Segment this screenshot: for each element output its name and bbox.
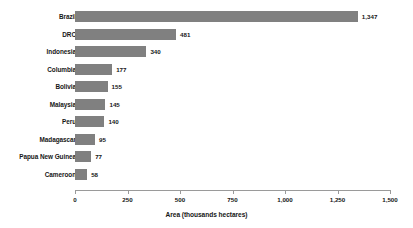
bar [75,99,105,110]
bar [75,116,104,127]
bar-value-label: 58 [91,169,98,180]
bar [75,169,87,180]
bar [75,46,146,57]
x-tick-mark [338,190,339,194]
category-label: Madagascar [0,134,76,145]
bar-row: DRC481 [0,29,413,47]
x-tick-mark [128,190,129,194]
x-tick-label: 1,500 [382,196,397,204]
bar-value-label: 177 [116,64,126,75]
bar-track: 58 [75,169,390,180]
bar-track: 177 [75,64,390,75]
bar-value-label: 155 [112,81,122,92]
bar-value-label: 481 [180,29,190,40]
bar-track: 95 [75,134,390,145]
bar-row: Peru140 [0,116,413,134]
bar [75,151,91,162]
bar-track: 481 [75,29,390,40]
bar-track: 155 [75,81,390,92]
category-label: DRC [0,29,76,40]
bar-value-label: 77 [95,151,102,162]
x-tick-mark [390,190,391,194]
x-tick-label: 0 [73,196,76,204]
x-tick-mark [285,190,286,194]
bar [75,134,95,145]
bar-value-label: 145 [109,99,119,110]
bar-row: Cameroon58 [0,169,413,187]
bar-row: Brazil1,347 [0,11,413,29]
category-label: Brazil [0,11,76,22]
bar-track: 140 [75,116,390,127]
bar-row: Malaysia145 [0,99,413,117]
bar-value-label: 340 [150,46,160,57]
x-tick-label: 500 [175,196,185,204]
category-label: Malaysia [0,99,76,110]
x-tick-label: 1,250 [330,196,345,204]
bar [75,11,358,22]
x-tick-label: 750 [227,196,237,204]
category-label: Papua New Guinea [0,151,76,162]
bar [75,29,176,40]
category-label: Bolivia [0,81,76,92]
chart-plot-area: Brazil1,347DRC481Indonesia340Columbia177… [0,11,413,186]
bar-row: Papua New Guinea77 [0,151,413,169]
bar-value-label: 140 [108,116,118,127]
bar-track: 77 [75,151,390,162]
x-tick-label: 250 [122,196,132,204]
bar-track: 145 [75,99,390,110]
bar-track: 340 [75,46,390,57]
bar-row: Bolivia155 [0,81,413,99]
category-label: Columbia [0,64,76,75]
x-tick-label: 1,000 [277,196,292,204]
x-tick-mark [180,190,181,194]
x-tick-mark [75,190,76,194]
bar [75,64,112,75]
x-axis-title: Area (thousands hectares) [0,211,413,218]
bar [75,81,108,92]
x-tick-mark [233,190,234,194]
bar-track: 1,347 [75,11,390,22]
category-label: Indonesia [0,46,76,57]
bar-row: Madagascar95 [0,134,413,152]
category-label: Cameroon [0,169,76,180]
category-label: Peru [0,116,76,127]
bar-row: Columbia177 [0,64,413,82]
bar-value-label: 95 [99,134,106,145]
bar-chart: Brazil1,347DRC481Indonesia340Columbia177… [0,0,413,228]
bar-value-label: 1,347 [362,11,377,22]
bar-row: Indonesia340 [0,46,413,64]
